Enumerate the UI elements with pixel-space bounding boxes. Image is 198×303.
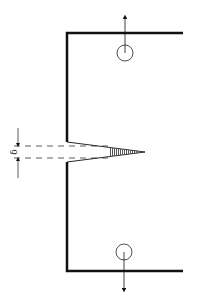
delta-dimension: δ: [9, 128, 19, 178]
notch: [67, 142, 145, 162]
delta-label: δ: [9, 149, 19, 154]
ct-specimen-diagram: δ: [0, 0, 198, 303]
crack-tip-hatch: [110, 148, 145, 157]
dimension-extension-lines: [14, 146, 110, 158]
